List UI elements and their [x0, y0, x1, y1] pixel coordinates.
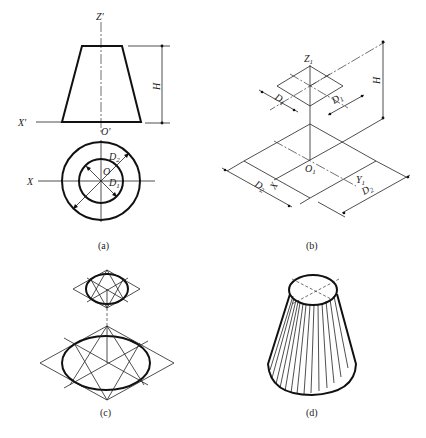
o1-origin-label: O1 [305, 163, 316, 176]
shading-lines [270, 296, 348, 394]
x1-axis-label: X [267, 179, 281, 191]
dim-tick-icon [382, 41, 385, 44]
construction-line [74, 343, 107, 400]
height-label-b: H [371, 76, 382, 85]
caption-b: (b) [306, 240, 318, 252]
y1-axis-label: Y1 [356, 174, 365, 187]
figure-canvas: Z' X' O' H X O D2 D1 [0, 0, 426, 438]
top-axis-line [292, 279, 333, 300]
dim-tick-icon [329, 113, 332, 116]
panel-b: H D1 D1 D2 D2 Z1 O1 X Y1 [222, 41, 410, 217]
height-extension-bottom [346, 118, 384, 140]
extension-line [300, 198, 310, 204]
frustum-front-outline [62, 46, 141, 122]
dim-tick-icon [161, 122, 164, 125]
extension-line [318, 202, 345, 217]
dim-tick-icon [293, 109, 296, 112]
dim-tick-icon [382, 117, 385, 120]
front-view: Z' X' O' H [17, 11, 170, 137]
dim-tick-icon [161, 45, 164, 48]
dim-tick-icon [361, 95, 364, 98]
construction-line [107, 326, 144, 385]
axis-line [64, 338, 148, 385]
caption-d: (d) [306, 407, 318, 419]
top-ellipse-d [289, 275, 337, 305]
x-axis-label: X' [17, 117, 27, 128]
construction-line [70, 326, 107, 385]
bottom-d2-right-dimension [342, 175, 410, 213]
dim-tick-icon [224, 169, 227, 172]
height-label: H [151, 82, 162, 91]
caption-c: (c) [100, 407, 111, 419]
d1-label: D1 [108, 177, 120, 190]
extension-line [376, 161, 408, 178]
panel-c [40, 270, 174, 400]
x-axis-label-top: X [26, 176, 34, 187]
origin-label: O' [101, 126, 111, 137]
dim-tick-icon [407, 176, 410, 179]
d2-label: D2 [108, 151, 120, 164]
top-view: X O D2 D1 [26, 140, 155, 222]
origin-label-top: O [103, 166, 110, 177]
panel-d [268, 275, 356, 395]
caption-a: (a) [98, 240, 109, 252]
dim-tick-icon [261, 91, 264, 94]
dim-tick-icon [288, 205, 291, 208]
dim-tick-icon [343, 212, 346, 215]
z1-axis-label: Z1 [304, 53, 313, 66]
panel-a: Z' X' O' H X O D2 D1 [17, 11, 170, 222]
extension-line [227, 161, 244, 171]
z-axis-label: Z' [96, 11, 105, 22]
